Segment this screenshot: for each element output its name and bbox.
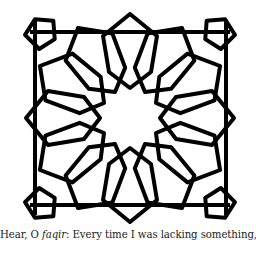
rosette-lines bbox=[22, 11, 238, 226]
caption-text: Hear, O faqir: Every time I was lacking … bbox=[0, 229, 256, 240]
caption-italic-word: faqir bbox=[42, 229, 66, 240]
caption-suffix: : Every time I was lacking something, bbox=[66, 229, 256, 240]
geometric-star-pattern bbox=[0, 0, 256, 230]
caption-prefix: Hear, O bbox=[0, 229, 42, 240]
